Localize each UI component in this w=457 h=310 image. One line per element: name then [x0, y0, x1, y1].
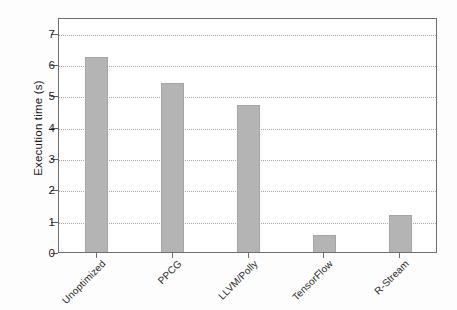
bar: [85, 57, 108, 253]
x-axis-category-label: TensorFlow: [290, 258, 335, 303]
x-tick-mark: [323, 253, 324, 258]
gridline: [59, 35, 436, 36]
gridline: [59, 97, 436, 98]
bar-chart: Execution time (s) 01234567 UnoptimizedP…: [0, 0, 457, 310]
y-tick-label: 6: [15, 59, 55, 71]
x-axis-category-label: Unoptimized: [60, 258, 108, 306]
y-tick-label: 2: [15, 184, 55, 196]
x-tick-mark: [96, 253, 97, 258]
y-tick-label: 7: [15, 28, 55, 40]
y-tick-label: 0: [15, 247, 55, 259]
x-axis-category-label: LLVM/Polly: [216, 258, 260, 302]
bar: [161, 83, 184, 253]
x-tick-mark: [172, 253, 173, 258]
y-tick-label: 1: [15, 216, 55, 228]
plot-area: [58, 18, 437, 253]
x-tick-mark: [399, 253, 400, 258]
x-tick-mark: [248, 253, 249, 258]
y-tick-label: 4: [15, 122, 55, 134]
x-axis-category-label: R-Stream: [372, 258, 411, 297]
bar: [237, 105, 260, 253]
y-tick-label: 3: [15, 153, 55, 165]
bar: [389, 215, 412, 253]
x-axis-category-label: PPCG: [155, 258, 183, 286]
y-tick-label: 5: [15, 90, 55, 102]
gridline: [59, 66, 436, 67]
bar: [313, 235, 336, 253]
